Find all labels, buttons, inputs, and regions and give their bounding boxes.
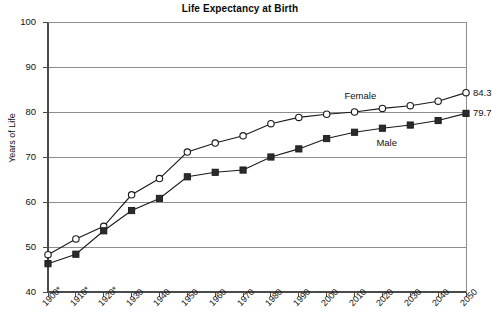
y-tick-label: 50 [6, 241, 36, 252]
series-markers [45, 89, 469, 266]
y-tick-label: 60 [6, 196, 36, 207]
series-lines [48, 93, 466, 264]
gridlines [48, 22, 466, 247]
y-tick-label: 100 [6, 16, 36, 27]
y-tick-label: 90 [6, 61, 36, 72]
y-tick-label: 40 [6, 286, 36, 297]
y-tick-label: 70 [6, 151, 36, 162]
endpoint-value-female: 84.3 [473, 87, 492, 98]
series-label-female: Female [345, 90, 377, 101]
series-label-male: Male [376, 137, 397, 148]
endpoint-value-male: 79.7 [473, 107, 492, 118]
y-tick-label: 80 [6, 106, 36, 117]
